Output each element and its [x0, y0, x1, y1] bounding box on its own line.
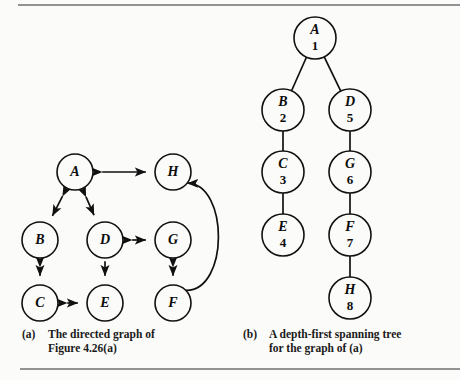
graph-a-nodes: ABCDEGFH [22, 154, 191, 321]
node-label: E [99, 295, 109, 310]
tree-node-h: H8 [329, 277, 371, 319]
tree-node-number: 3 [280, 172, 287, 187]
tree-node-c: C3 [262, 151, 304, 193]
graph-node-e: E [87, 285, 123, 321]
graph-node-d: D [87, 222, 123, 258]
caption-b-line1: A depth-first spanning tree [269, 328, 401, 340]
tree-node-f: F7 [329, 214, 371, 256]
figure-canvas: ABCDEGFH A1B2C3E4D5G6F7H8 [0, 0, 460, 380]
tree-node-a: A1 [294, 17, 336, 59]
graph-node-a: A [57, 154, 93, 190]
tree-node-label: A [309, 22, 319, 37]
tree-node-g: G6 [329, 151, 371, 193]
tree-node-d: D5 [329, 89, 371, 131]
graph-node-b: B [22, 222, 58, 258]
node-label: G [168, 232, 178, 247]
caption-a-line1: The directed graph of [48, 328, 155, 340]
tree-node-label: E [277, 219, 287, 234]
tree-node-number: 8 [347, 298, 354, 313]
tree-node-number: 4 [280, 235, 287, 250]
tree-node-e: E4 [262, 214, 304, 256]
graph-node-h: H [155, 154, 191, 190]
tree-node-label: F [344, 219, 355, 234]
caption-a-line2: Figure 4.26(a) [48, 342, 117, 354]
edge-A-B [52, 196, 62, 216]
tree-node-number: 7 [347, 235, 354, 250]
tree-node-number: 6 [347, 172, 354, 187]
tree-node-label: B [277, 94, 287, 109]
figure-root: ABCDEGFH A1B2C3E4D5G6F7H8 (a)The directe… [0, 0, 460, 380]
graph-a-edges [40, 172, 218, 303]
graph-node-g: G [155, 222, 191, 258]
tree-node-label: C [278, 156, 288, 171]
tree-node-label: G [345, 156, 355, 171]
node-label: C [35, 295, 45, 310]
tree-node-b: B2 [262, 89, 304, 131]
caption-b-line2: for the graph of (a) [269, 342, 363, 354]
node-label: D [99, 232, 110, 247]
tree-edge-A-D [324, 56, 342, 92]
caption-b: (b)A depth-first spanning treefor the gr… [243, 327, 401, 355]
tree-node-label: H [344, 282, 357, 297]
graph-node-f: F [155, 285, 191, 321]
tree-node-label: D [344, 94, 355, 109]
node-label: A [69, 164, 79, 179]
caption-a-tag: (a) [22, 327, 48, 341]
caption-b-tag: (b) [243, 327, 269, 341]
tree-edge-A-B [291, 56, 307, 91]
tree-node-number: 5 [347, 110, 354, 125]
tree-node-number: 1 [312, 38, 319, 53]
tree-b-nodes: A1B2C3E4D5G6F7H8 [262, 17, 371, 319]
node-label: B [34, 232, 44, 247]
caption-a: (a)The directed graph ofFigure 4.26(a) [22, 327, 155, 355]
node-label: F [167, 295, 178, 310]
node-label: H [167, 164, 180, 179]
edge-A-D [86, 197, 94, 215]
graph-node-c: C [22, 285, 58, 321]
tree-node-number: 2 [280, 110, 287, 125]
